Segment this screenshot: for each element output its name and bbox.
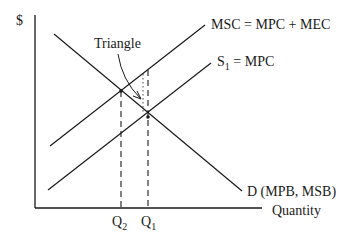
externality-diagram: $ Triangle MSC = MPC + MEC S1 = MPC D (M… bbox=[0, 0, 364, 243]
msc-label: MSC = MPC + MEC bbox=[211, 17, 330, 32]
y-axis-label: $ bbox=[16, 13, 23, 28]
intersection-q2 bbox=[119, 89, 123, 93]
x-axis-label: Quantity bbox=[272, 203, 321, 218]
q2-tick-label: Q2 bbox=[112, 214, 127, 232]
intersection-q1 bbox=[146, 115, 150, 119]
demand-label: D (MPB, MSB) bbox=[247, 184, 336, 200]
q1-tick-label: Q1 bbox=[141, 214, 156, 232]
s1-curve bbox=[48, 63, 211, 190]
s1-label: S1 = MPC bbox=[217, 54, 274, 72]
triangle-label: Triangle bbox=[94, 36, 141, 51]
